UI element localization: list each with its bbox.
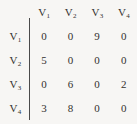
- column-header-v2-base: V: [65, 6, 73, 18]
- cell-r3c4: 2: [110, 72, 137, 96]
- row-header-v1-subscript: 1: [18, 36, 22, 44]
- cell-r3c3: 0: [84, 72, 111, 96]
- column-header-v1-subscript: 1: [46, 12, 50, 20]
- column-header-v2-subscript: 2: [73, 12, 77, 20]
- cell-r1c4: 0: [110, 24, 137, 48]
- matrix-table: V1 V2 V3 V4 V1 0 0 9 0 V2 5 0 0 0: [0, 0, 137, 120]
- row-header-v3-subscript: 3: [18, 84, 22, 92]
- table-row: V1 0 0 9 0: [0, 24, 137, 48]
- matrix-corner-spacer: [0, 0, 31, 24]
- column-header-v3-subscript: 3: [100, 12, 104, 20]
- row-header-v4-base: V: [10, 102, 18, 114]
- cell-r1c2: 0: [57, 24, 84, 48]
- matrix-header-row-group: V1 V2 V3 V4: [0, 0, 137, 24]
- matrix-body: V1 0 0 9 0 V2 5 0 0 0 V3 0 6 0 2 V4: [0, 24, 137, 120]
- column-header-v2: V2: [57, 0, 84, 24]
- column-header-v3-base: V: [91, 6, 99, 18]
- cell-r4c1: 3: [31, 96, 58, 120]
- cell-r3c2: 6: [57, 72, 84, 96]
- row-header-v4: V4: [0, 96, 31, 120]
- column-header-v4: V4: [110, 0, 137, 24]
- cell-r2c2: 0: [57, 48, 84, 72]
- row-header-v3: V3: [0, 72, 31, 96]
- cell-r4c4: 0: [110, 96, 137, 120]
- table-row: V2 5 0 0 0: [0, 48, 137, 72]
- row-header-v1: V1: [0, 24, 31, 48]
- cell-r2c3: 0: [84, 48, 111, 72]
- adjacency-matrix-figure: V1 V2 V3 V4 V1 0 0 9 0 V2 5 0 0 0: [0, 0, 137, 124]
- table-row: V3 0 6 0 2: [0, 72, 137, 96]
- cell-r4c2: 8: [57, 96, 84, 120]
- column-header-v4-base: V: [118, 6, 126, 18]
- cell-r1c3: 9: [84, 24, 111, 48]
- row-header-v2: V2: [0, 48, 31, 72]
- cell-r2c1: 5: [31, 48, 58, 72]
- cell-r1c1: 0: [31, 24, 58, 48]
- column-header-v1: V1: [31, 0, 58, 24]
- row-header-v2-subscript: 2: [18, 60, 22, 68]
- column-header-v3: V3: [84, 0, 111, 24]
- matrix-column-header-row: V1 V2 V3 V4: [0, 0, 137, 24]
- row-header-v4-subscript: 4: [18, 108, 22, 116]
- column-header-v1-base: V: [38, 6, 46, 18]
- cell-r3c1: 0: [31, 72, 58, 96]
- row-header-v1-base: V: [10, 30, 18, 42]
- row-header-v3-base: V: [10, 78, 18, 90]
- row-header-v2-base: V: [10, 54, 18, 66]
- cell-r4c3: 0: [84, 96, 111, 120]
- column-header-v4-subscript: 4: [126, 12, 130, 20]
- table-row: V4 3 8 0 0: [0, 96, 137, 120]
- cell-r2c4: 0: [110, 48, 137, 72]
